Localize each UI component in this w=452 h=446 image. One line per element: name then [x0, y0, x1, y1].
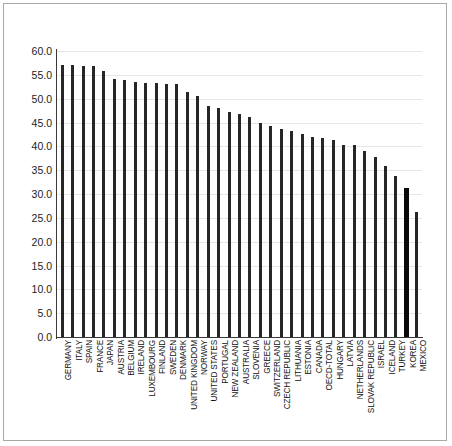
- y-tick-label: 15.0: [32, 261, 52, 272]
- x-tick-label: CZECH REPUBLIC: [284, 340, 292, 409]
- x-tick-label: FINLAND: [159, 340, 167, 374]
- x-tick-label: NEW ZEALAND: [232, 340, 240, 398]
- x-tick-label: SLOVENIA: [253, 340, 261, 380]
- bar: [415, 212, 418, 337]
- bar: [280, 129, 283, 337]
- bar: [165, 84, 168, 337]
- bar: [155, 83, 158, 337]
- x-tick-label: DENMARK: [180, 340, 188, 380]
- bar: [61, 65, 64, 337]
- y-tick-label: 10.0: [32, 284, 52, 295]
- bar: [374, 157, 377, 337]
- bar-highlighted: [404, 188, 409, 337]
- y-tick-label: 5.0: [37, 308, 52, 319]
- y-tick-label: 0.0: [37, 332, 52, 343]
- x-tick-label: HUNGARY: [337, 340, 345, 380]
- bar: [238, 114, 241, 337]
- bar: [311, 137, 314, 337]
- bar: [134, 82, 137, 337]
- y-tick-label: 60.0: [32, 46, 52, 57]
- y-tick-label: 50.0: [32, 94, 52, 105]
- x-tick-label: FRANCE: [97, 340, 105, 373]
- bar: [71, 65, 74, 337]
- x-tick-label: SWITZERLAND: [274, 340, 282, 397]
- x-tick-label: PORTUGAL: [222, 340, 230, 384]
- y-tick-label: 30.0: [32, 189, 52, 200]
- y-tick-label: 55.0: [32, 70, 52, 81]
- x-tick-label: GREECE: [264, 340, 272, 374]
- x-tick-label: NORWAY: [201, 340, 209, 375]
- x-tick-label: SPAIN: [86, 340, 94, 363]
- bar: [102, 71, 105, 337]
- x-axis-line: [56, 337, 423, 338]
- bar: [301, 134, 304, 337]
- bar: [82, 66, 85, 337]
- y-tick-label: 25.0: [32, 213, 52, 224]
- bar: [353, 145, 356, 337]
- bar: [290, 131, 293, 337]
- x-tick-label: IRELAND: [138, 340, 146, 374]
- x-tick-label: JAPAN: [107, 340, 115, 365]
- y-tick-label: 20.0: [32, 237, 52, 248]
- x-tick-label: MEXICO: [420, 340, 428, 371]
- bar: [228, 112, 231, 337]
- x-tick-label: SWEDEN: [170, 340, 178, 375]
- chart-frame: 60.055.050.045.040.035.030.025.020.015.0…: [3, 3, 447, 441]
- bar: [342, 145, 345, 337]
- bar: [248, 117, 251, 337]
- x-tick-label: TURKEY: [399, 340, 407, 372]
- bar: [196, 96, 199, 337]
- y-tick-label: 45.0: [32, 118, 52, 129]
- bar: [92, 66, 95, 337]
- x-tick-label: LATVIA: [347, 340, 355, 367]
- x-tick-label: ESTONIA: [305, 340, 313, 375]
- x-tick-label: GERMANY: [65, 340, 73, 380]
- x-tick-label: CANADA: [316, 340, 324, 373]
- y-axis-tick-labels: 60.055.050.045.040.035.030.025.020.015.0…: [4, 4, 52, 440]
- bar: [269, 126, 272, 337]
- bar-series: [57, 4, 422, 337]
- bar: [321, 138, 324, 337]
- bar: [144, 83, 147, 337]
- y-tick-label: 35.0: [32, 165, 52, 176]
- x-tick-label: ISRAEL: [378, 340, 386, 368]
- x-tick-label: KOREA: [410, 340, 418, 368]
- bar: [175, 84, 178, 337]
- bar: [207, 106, 210, 337]
- x-tick-label: ITALY: [76, 340, 84, 361]
- bar: [259, 123, 262, 338]
- x-tick-label: ICELAND: [389, 340, 397, 374]
- x-axis-category-labels: GERMANYITALYSPAINFRANCEJAPANAUSTRIABELGI…: [57, 340, 422, 440]
- x-tick-label: BELGIUM: [128, 340, 136, 376]
- x-tick-label: AUSTRIA: [118, 340, 126, 374]
- x-tick-label: AUSTRALIA: [243, 340, 251, 384]
- x-tick-label: UNITED STATES: [211, 340, 219, 401]
- x-tick-label: SLOVAK REPUBLIC: [368, 340, 376, 413]
- bar: [113, 79, 116, 337]
- bar: [123, 80, 126, 337]
- x-tick-label: LITHUANIA: [295, 340, 303, 381]
- x-tick-label: LUXEMBOURG: [149, 340, 157, 397]
- bar: [186, 92, 189, 337]
- y-tick-label: 40.0: [32, 141, 52, 152]
- bar: [363, 151, 366, 337]
- bar: [394, 176, 397, 337]
- x-tick-label: NETHERLANDS: [357, 340, 365, 399]
- x-tick-label: OECD-TOTAL: [326, 340, 334, 391]
- bar: [332, 140, 335, 337]
- x-tick-label: UNITED KINGDOM: [191, 340, 199, 410]
- bar: [384, 166, 387, 337]
- bar: [217, 108, 220, 337]
